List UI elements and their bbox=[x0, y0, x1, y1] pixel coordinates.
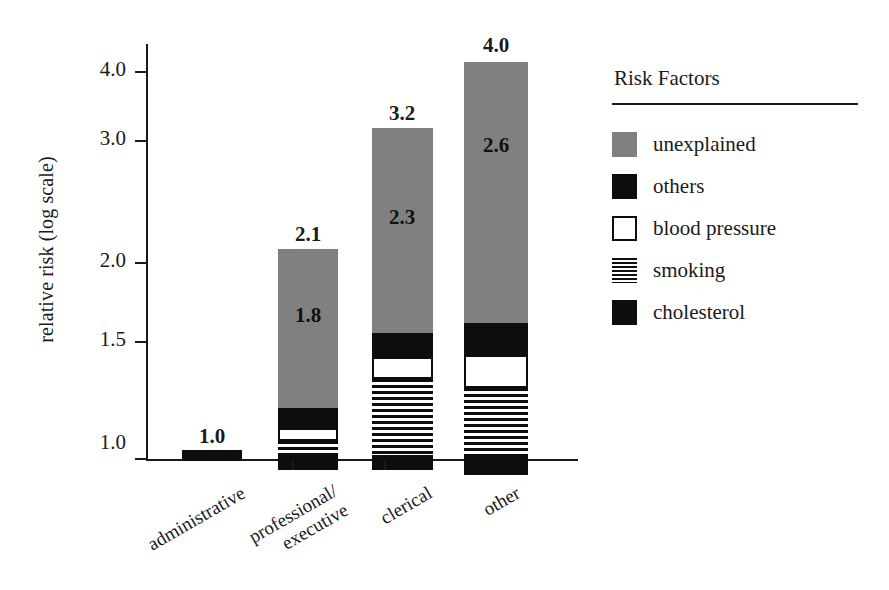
legend-title: Risk Factors bbox=[614, 66, 862, 91]
bar-segment-others bbox=[372, 333, 433, 357]
bar-segment-smoking bbox=[464, 388, 528, 455]
chart-figure: relative risk (log scale) 4.0 3.0 2.0 1.… bbox=[0, 0, 889, 590]
x-category-line-1: other bbox=[479, 482, 523, 520]
legend-label-unexplained: unexplained bbox=[653, 134, 756, 155]
legend-item-smoking[interactable]: smoking bbox=[612, 249, 862, 291]
bar-clerical[interactable] bbox=[372, 128, 433, 470]
y-axis-title: relative risk (log scale) bbox=[35, 100, 58, 400]
y-tick-mark-1p5 bbox=[135, 341, 147, 343]
legend-item-blood-pressure[interactable]: blood pressure bbox=[612, 207, 862, 249]
legend-label-cholesterol: cholesterol bbox=[653, 302, 745, 323]
bar-segment-smoking bbox=[278, 441, 338, 455]
legend-item-unexplained[interactable]: unexplained bbox=[612, 123, 862, 165]
bar-unexplained-label-professional-executive: 1.8 bbox=[263, 303, 353, 328]
bar-segment-cholesterol bbox=[372, 455, 433, 470]
bar-segment-others bbox=[278, 408, 338, 428]
y-tick-label-1p5: 1.5 bbox=[66, 327, 126, 352]
y-tick-label-2: 2.0 bbox=[66, 248, 126, 273]
legend-swatch-smoking-icon bbox=[612, 258, 637, 283]
bar-professional-executive[interactable] bbox=[278, 249, 338, 470]
bar-total-label-other: 4.0 bbox=[451, 33, 541, 58]
x-category-label-clerical: clerical bbox=[356, 482, 436, 541]
bar-segment-blood-pressure bbox=[278, 428, 338, 441]
legend-label-smoking: smoking bbox=[653, 260, 725, 281]
bar-segment-others bbox=[464, 323, 528, 355]
legend-label-others: others bbox=[653, 176, 704, 197]
bar-segment-unexplained bbox=[464, 62, 528, 323]
legend-swatch-others-icon bbox=[612, 174, 637, 199]
bar-unexplained-label-clerical: 2.3 bbox=[357, 205, 447, 230]
bar-segment-cholesterol bbox=[464, 455, 528, 475]
bar-total-label-clerical: 3.2 bbox=[357, 101, 447, 126]
y-tick-label-3: 3.0 bbox=[66, 126, 126, 151]
y-tick-mark-3 bbox=[135, 140, 147, 142]
bar-segment-unexplained bbox=[372, 128, 433, 333]
bar-segment-blood-pressure bbox=[372, 357, 433, 379]
legend-label-blood-pressure: blood pressure bbox=[653, 218, 776, 239]
legend-swatch-unexplained-icon bbox=[612, 132, 637, 157]
x-tick-mark-professional-executive bbox=[292, 461, 294, 470]
y-axis-line bbox=[146, 44, 148, 461]
bar-segment-blood-pressure bbox=[464, 355, 528, 388]
legend-swatch-cholesterol-icon bbox=[612, 300, 637, 325]
bar-segment-cholesterol bbox=[182, 450, 242, 461]
bar-other[interactable] bbox=[464, 62, 528, 475]
y-tick-mark-2 bbox=[135, 262, 147, 264]
bar-segment-unexplained bbox=[278, 249, 338, 408]
y-tick-label-1: 1.0 bbox=[66, 430, 126, 455]
legend-divider bbox=[612, 103, 858, 105]
bar-administrative[interactable] bbox=[182, 450, 242, 470]
legend-item-cholesterol[interactable]: cholesterol bbox=[612, 291, 862, 333]
y-tick-mark-4 bbox=[135, 71, 147, 73]
legend-item-others[interactable]: others bbox=[612, 165, 862, 207]
x-tick-mark-clerical bbox=[384, 461, 386, 470]
x-category-label-other: other bbox=[461, 482, 524, 531]
bar-segment-smoking bbox=[372, 379, 433, 455]
bar-total-label-professional-executive: 2.1 bbox=[263, 222, 353, 247]
bar-total-label-administrative: 1.0 bbox=[167, 424, 257, 449]
x-category-line-1: clerical bbox=[377, 482, 436, 528]
legend: Risk Factors unexplained others blood pr… bbox=[612, 66, 862, 333]
y-tick-label-4: 4.0 bbox=[66, 57, 126, 82]
bar-unexplained-label-other: 2.6 bbox=[451, 133, 541, 158]
bar-segment-cholesterol bbox=[278, 455, 338, 470]
legend-swatch-blood-pressure-icon bbox=[612, 216, 637, 241]
